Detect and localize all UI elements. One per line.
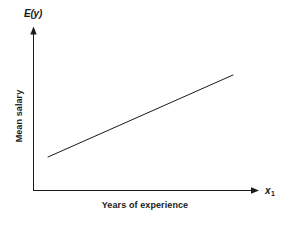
chart-plot-area: [0, 0, 292, 225]
right-arrow-icon: [251, 187, 259, 193]
x-axis-symbol-subscript: 1: [271, 190, 275, 197]
x-axis-title: Years of experience: [85, 201, 205, 210]
x-axis-symbol-base: x: [265, 185, 271, 196]
y-axis-symbol-label: E(y): [24, 9, 42, 19]
y-axis-title: Mean salary: [15, 56, 29, 176]
x-axis-symbol-label: x1: [265, 186, 275, 197]
figure-canvas: E(y) Mean salary Years of experience x1: [0, 0, 292, 225]
up-arrow-icon: [30, 27, 36, 35]
data-series-line: [48, 75, 233, 157]
